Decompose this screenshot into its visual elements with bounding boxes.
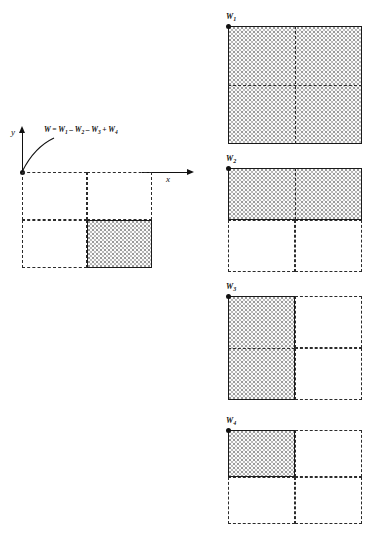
formula-term-2-sub: 2 xyxy=(81,129,84,135)
main-shaded-region xyxy=(87,220,152,268)
x-axis-label: x xyxy=(166,174,170,184)
panel-w4-corner-marker xyxy=(226,428,231,433)
decomposition-formula: W=W1–W2–W3+W4 xyxy=(44,125,118,134)
main-quadrant-top-left xyxy=(22,172,87,220)
formula-term-3: W xyxy=(91,125,98,134)
panel-w1-label-sub: 1 xyxy=(233,16,236,22)
panel-w4-shaded-top-left-quadrant xyxy=(228,430,295,477)
panel-w3-empty-top-right xyxy=(295,296,362,348)
panel-w4-label: W4 xyxy=(226,417,236,425)
formula-term-3-sub: 3 xyxy=(98,129,101,135)
panel-w3-corner-marker xyxy=(226,294,231,299)
formula-op-2: – xyxy=(86,125,90,134)
panel-w2-label-sub: 2 xyxy=(233,158,236,164)
main-quadrant-bottom-left xyxy=(22,220,87,268)
panel-w3-label: W3 xyxy=(226,283,236,291)
main-diagram-panel: y x W=W1–W2–W3+W4 xyxy=(0,110,205,280)
panel-w3: W3 xyxy=(228,296,362,400)
panel-w3-divider-horizontal xyxy=(228,348,295,349)
panel-w2-empty-bottom-right xyxy=(295,220,362,272)
panel-w1: W1 xyxy=(228,26,362,144)
panel-w3-empty-bottom-right xyxy=(295,348,362,400)
panel-w2-empty-bottom-left xyxy=(228,220,295,272)
formula-term-4-sub: 4 xyxy=(115,129,118,135)
panel-w3-label-sub: 3 xyxy=(233,286,236,292)
figure-root: y x W=W1–W2–W3+W4 W1 W2 xyxy=(0,0,372,534)
panel-w4-label-sub: 4 xyxy=(233,420,236,426)
panel-w1-label: W1 xyxy=(226,13,236,21)
formula-op-1: – xyxy=(69,125,73,134)
panel-w1-corner-marker xyxy=(226,24,231,29)
formula-equals: = xyxy=(52,125,56,134)
panel-w4-empty-bottom-left xyxy=(228,477,295,524)
formula-term-1: W xyxy=(58,125,65,134)
formula-op-3: + xyxy=(102,125,106,134)
formula-lhs: W xyxy=(44,125,51,134)
panel-w1-divider-horizontal xyxy=(228,85,362,86)
formula-term-4: W xyxy=(108,125,115,134)
panel-w4-empty-bottom-right xyxy=(295,477,362,524)
panel-w2-corner-marker xyxy=(226,166,231,171)
panel-w4: W4 xyxy=(228,430,362,524)
x-axis-arrowhead xyxy=(187,169,194,175)
panel-w2-divider-vertical xyxy=(295,168,296,220)
panel-w4-empty-top-right xyxy=(295,430,362,477)
panel-w2-label: W2 xyxy=(226,155,236,163)
formula-term-1-sub: 1 xyxy=(65,129,68,135)
y-axis-label: y xyxy=(11,127,15,137)
main-quadrant-top-right xyxy=(87,172,152,220)
panel-w2: W2 xyxy=(228,168,362,272)
